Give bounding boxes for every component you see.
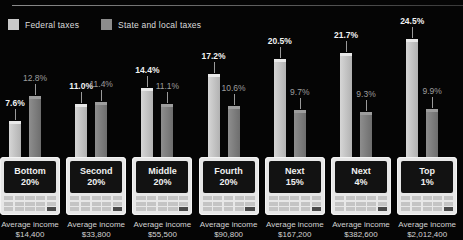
window-cell (412, 196, 421, 200)
caption-income-label: Average income (266, 220, 324, 230)
window-cell (179, 202, 188, 206)
value-label-federal: 7.6% (5, 99, 24, 108)
window-cell (356, 207, 365, 211)
bar-group: 21.7%9.3%Next4%Average income$382,600 (328, 37, 394, 240)
window-cell (15, 207, 24, 211)
window-cell (433, 196, 442, 200)
window-cell (147, 207, 156, 211)
group-name-panel: Top1% (401, 161, 453, 193)
caption-income-value: $167,200 (266, 230, 324, 240)
window-cell (224, 196, 233, 200)
window-cell (401, 207, 410, 211)
window-cell (47, 202, 56, 206)
bar-cap (274, 59, 286, 62)
bar-state-local-taxes (95, 102, 107, 157)
bar-federal-taxes (141, 88, 153, 157)
value-label-federal: 17.2% (202, 52, 226, 61)
bar-cap (161, 104, 173, 107)
group-name-line1: Bottom (6, 166, 54, 176)
group-base-card[interactable]: Top1% (397, 157, 457, 215)
value-leader-line (35, 84, 36, 95)
building-windows-icon (203, 196, 255, 211)
group-base-card[interactable]: Next15% (265, 157, 325, 215)
group-base-card[interactable]: Second20% (66, 157, 126, 215)
bar-cap (426, 109, 438, 112)
window-cell (269, 196, 278, 200)
bar-group-container: 7.6%12.8%Bottom20%Average income$14,4001… (0, 44, 463, 240)
group-name-panel: Middle20% (136, 161, 188, 193)
value-leader-line (81, 92, 82, 103)
window-cell (70, 196, 79, 200)
window-cell (290, 196, 299, 200)
value-label-state-local: 12.8% (23, 74, 47, 83)
value-leader-line (346, 41, 347, 52)
building-windows-icon (70, 196, 122, 211)
bar-cap (208, 74, 220, 77)
value-label-state-local: 9.3% (356, 90, 375, 99)
bar-cap (360, 112, 372, 115)
bar-federal-taxes (208, 74, 220, 157)
value-label-federal: 20.5% (268, 37, 292, 46)
window-cell (224, 207, 233, 211)
value-leader-line (101, 90, 102, 101)
caption-income-value: $14,400 (1, 230, 59, 240)
caption-income-value: $2,012,400 (398, 230, 456, 240)
bar-state-local-taxes (294, 110, 306, 157)
window-cell (102, 196, 111, 200)
window-cell (401, 196, 410, 200)
caption-income-value: $33,800 (67, 230, 125, 240)
window-cell (444, 202, 453, 206)
bar-cap (294, 110, 306, 113)
value-label-state-local: 10.6% (222, 84, 246, 93)
bar-cap (228, 106, 240, 109)
window-cell (235, 202, 244, 206)
group-name-line2: 4% (337, 177, 385, 187)
window-cell (224, 202, 233, 206)
window-cell (36, 196, 45, 200)
window-cell (301, 207, 310, 211)
window-cell (423, 196, 432, 200)
caption-income-value: $55,500 (134, 230, 192, 240)
window-cell (136, 207, 145, 211)
window-cell (444, 207, 453, 211)
window-cell (235, 196, 244, 200)
value-leader-line (366, 100, 367, 111)
value-label-federal: 14.4% (135, 66, 159, 75)
group-base-card[interactable]: Bottom20% (0, 157, 60, 215)
group-caption: Average income$2,012,400 (398, 220, 456, 240)
value-leader-line (15, 109, 16, 120)
group-name-panel: Bottom20% (4, 161, 56, 193)
group-name-panel: Next15% (269, 161, 321, 193)
value-label-federal: 21.7% (334, 31, 358, 40)
window-cell (158, 202, 167, 206)
window-cell (158, 196, 167, 200)
group-base-card[interactable]: Fourth20% (199, 157, 259, 215)
window-cell (378, 207, 387, 211)
window-cell (136, 196, 145, 200)
window-cell (147, 196, 156, 200)
group-caption: Average income$382,600 (332, 220, 390, 240)
group-name-line1: Middle (138, 166, 186, 176)
window-cell (367, 202, 376, 206)
window-cell (179, 196, 188, 200)
window-cell (245, 196, 254, 200)
window-cell (102, 202, 111, 206)
bar-group: 11.0%11.4%Second20%Average income$33,800 (63, 37, 129, 240)
window-cell (4, 207, 13, 211)
value-leader-line (432, 97, 433, 108)
group-base-card[interactable]: Next4% (331, 157, 391, 215)
bar-group: 17.2%10.6%Fourth20%Average income$90,800 (196, 37, 262, 240)
window-cell (113, 202, 122, 206)
group-caption: Average income$55,500 (134, 220, 192, 240)
window-cell (279, 196, 288, 200)
window-cell (25, 202, 34, 206)
value-label-state-local: 11.4% (89, 80, 112, 89)
window-cell (245, 207, 254, 211)
bar-pair: 21.7%9.3% (328, 37, 394, 157)
group-name-panel: Fourth20% (203, 161, 255, 193)
window-cell (168, 196, 177, 200)
group-base-card[interactable]: Middle20% (132, 157, 192, 215)
value-label-state-local: 9.7% (290, 88, 309, 97)
building-windows-icon (335, 196, 387, 211)
square-swatch-icon (101, 19, 112, 30)
